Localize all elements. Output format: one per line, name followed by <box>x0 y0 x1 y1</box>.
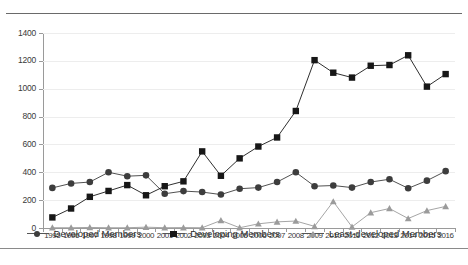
data-point <box>349 74 355 80</box>
data-point <box>49 214 55 220</box>
chart-legend: Developed Members Developing Members Lea… <box>0 228 468 239</box>
data-point <box>161 190 168 197</box>
data-point <box>255 143 261 149</box>
circle-marker-icon <box>27 229 49 239</box>
data-point <box>105 188 111 194</box>
data-point <box>218 173 224 179</box>
data-point <box>218 191 225 198</box>
series-line-2 <box>52 202 445 228</box>
legend-item-developed[interactable]: Developed Members <box>27 228 142 239</box>
data-point <box>68 180 75 187</box>
series-layer <box>0 22 468 240</box>
top-divider <box>6 13 462 14</box>
data-point <box>293 108 299 114</box>
square-marker-icon <box>163 229 185 239</box>
data-point <box>87 194 93 200</box>
data-point <box>218 217 225 223</box>
figure-caption <box>0 252 468 265</box>
legend-label-developing: Developing Members <box>190 228 280 239</box>
data-point <box>143 172 150 179</box>
data-point <box>49 185 56 192</box>
data-point <box>199 189 206 196</box>
legend-item-developing[interactable]: Developing Members <box>163 228 280 239</box>
data-point <box>442 71 448 77</box>
data-point <box>180 178 186 184</box>
data-point <box>180 188 187 195</box>
data-point <box>405 185 412 192</box>
data-point <box>311 57 317 63</box>
data-point <box>405 215 412 221</box>
data-point <box>255 184 262 191</box>
data-point <box>368 63 374 69</box>
data-point <box>386 62 392 68</box>
chart-page: 0200400600800100012001400 19951996199719… <box>0 0 468 265</box>
data-point <box>162 183 168 189</box>
data-point <box>442 168 449 175</box>
line-chart: 0200400600800100012001400 19951996199719… <box>0 22 468 218</box>
data-point <box>68 205 74 211</box>
bottom-divider <box>0 248 468 249</box>
data-point <box>105 169 112 176</box>
data-point <box>330 182 337 189</box>
data-point <box>424 177 431 184</box>
legend-label-least-developed: Least-developed Members <box>329 228 441 239</box>
data-point <box>330 198 337 204</box>
data-point <box>293 169 300 176</box>
data-point <box>236 155 242 161</box>
data-point <box>349 184 356 191</box>
data-point <box>311 183 318 190</box>
data-point <box>124 173 131 180</box>
data-point <box>330 69 336 75</box>
data-point <box>386 205 393 211</box>
data-point <box>274 134 280 140</box>
data-point <box>87 179 94 186</box>
data-point <box>199 148 205 154</box>
data-point <box>236 185 243 192</box>
triangle-marker-icon <box>302 229 324 239</box>
legend-label-developed: Developed Members <box>54 228 142 239</box>
data-point <box>442 203 449 209</box>
data-point <box>274 179 281 186</box>
data-point <box>367 179 374 186</box>
data-point <box>405 52 411 58</box>
data-point <box>386 176 393 183</box>
data-point <box>143 192 149 198</box>
data-point <box>124 182 130 188</box>
data-point <box>424 83 430 89</box>
legend-item-least-developed[interactable]: Least-developed Members <box>302 228 441 239</box>
